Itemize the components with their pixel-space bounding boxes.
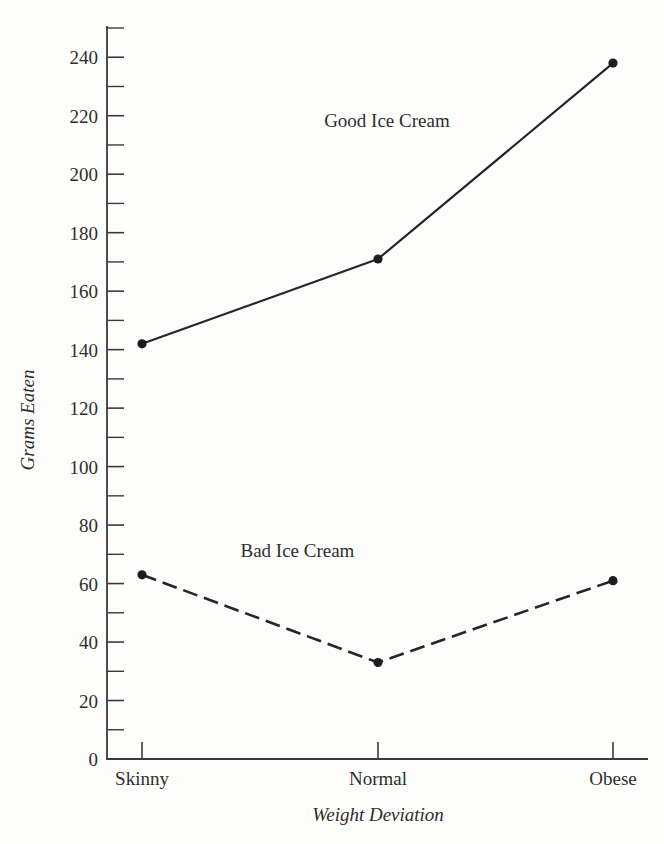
x-axis-category-labels: SkinnyNormalObese xyxy=(115,768,637,789)
y-tick-label: 200 xyxy=(70,164,99,185)
x-axis-title: Weight Deviation xyxy=(312,804,444,825)
data-point-bad-ice-cream-skinny xyxy=(137,570,146,579)
series-lines-group xyxy=(142,63,613,662)
series-line-good-ice-cream xyxy=(142,63,613,344)
x-axis-ticks xyxy=(142,742,613,759)
series-line-bad-ice-cream xyxy=(142,575,613,663)
y-tick-label: 120 xyxy=(70,398,99,419)
data-point-bad-ice-cream-normal xyxy=(373,658,382,667)
y-tick-label: 40 xyxy=(79,632,98,653)
series-label-bad-ice-cream: Bad Ice Cream xyxy=(240,540,354,561)
y-tick-label: 240 xyxy=(70,47,99,68)
y-axis-title: Grams Eaten xyxy=(17,370,38,471)
y-tick-label: 20 xyxy=(79,691,98,712)
y-tick-label: 60 xyxy=(79,574,98,595)
y-tick-label: 80 xyxy=(79,515,98,536)
x-category-label-skinny: Skinny xyxy=(115,768,169,789)
y-tick-label: 140 xyxy=(70,340,99,361)
x-category-label-normal: Normal xyxy=(349,768,407,789)
data-point-good-ice-cream-skinny xyxy=(137,339,146,348)
data-point-bad-ice-cream-obese xyxy=(608,576,617,585)
y-tick-label: 100 xyxy=(70,457,99,478)
series-label-good-ice-cream: Good Ice Cream xyxy=(324,110,450,131)
series-markers-group xyxy=(137,58,617,667)
y-tick-label: 160 xyxy=(70,281,99,302)
y-axis-ticks xyxy=(107,28,124,759)
series-annotation-labels: Good Ice CreamBad Ice Cream xyxy=(240,110,449,561)
y-tick-label: 0 xyxy=(89,749,99,770)
y-tick-label: 180 xyxy=(70,223,99,244)
y-tick-label: 220 xyxy=(70,106,99,127)
data-point-good-ice-cream-normal xyxy=(373,254,382,263)
x-category-label-obese: Obese xyxy=(589,768,636,789)
line-chart: 020406080100120140160180200220240 Skinny… xyxy=(0,0,664,844)
data-point-good-ice-cream-obese xyxy=(608,58,617,67)
chart-page: 020406080100120140160180200220240 Skinny… xyxy=(0,0,664,844)
y-axis-tick-labels: 020406080100120140160180200220240 xyxy=(70,47,99,770)
